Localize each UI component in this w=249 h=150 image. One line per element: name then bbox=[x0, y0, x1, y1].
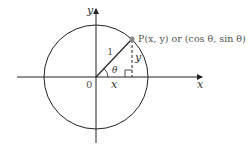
y-leg-label: y bbox=[134, 51, 142, 64]
x-axis-label: x bbox=[197, 78, 204, 91]
radius-label: 1 bbox=[107, 46, 113, 57]
unit-circle-diagram: y x 0 1 θ x y P(x, y) or (cos θ, sin θ) bbox=[0, 0, 249, 150]
point-p bbox=[130, 37, 135, 42]
origin-label: 0 bbox=[86, 79, 92, 90]
y-axis-label: y bbox=[86, 4, 94, 17]
angle-arc bbox=[104, 69, 108, 78]
point-label: P(x, y) or (cos θ, sin θ) bbox=[138, 33, 246, 44]
x-leg-label: x bbox=[111, 78, 118, 91]
right-angle-marker bbox=[125, 70, 132, 77]
angle-label: θ bbox=[112, 65, 118, 75]
